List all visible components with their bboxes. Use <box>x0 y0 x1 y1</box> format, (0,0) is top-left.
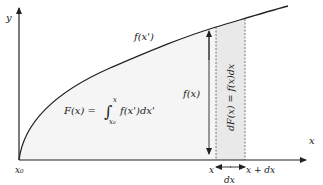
dx-label: dx <box>224 175 235 185</box>
height-label: f(x) <box>182 88 200 99</box>
y-axis-label: y <box>5 12 12 23</box>
formula-lhs: F(x) = <box>63 105 96 116</box>
tick-x: x <box>209 165 214 175</box>
curve-label: f(x') <box>133 31 154 42</box>
strip-label: dF(x) = f(x)dx <box>225 63 236 131</box>
formula-integrand: f(x')dx' <box>119 105 155 116</box>
integral-upper-limit: x <box>113 96 117 104</box>
integral-lower-limit: x₀ <box>109 118 116 126</box>
x-axis-label: x <box>309 135 315 146</box>
tick-x-plus-dx: x + dx <box>246 165 275 175</box>
integral-diagram: y x f(x') f(x) F(x) = ∫ x x₀ f(x')dx' dF… <box>0 0 323 185</box>
tick-x0: x₀ <box>15 165 24 175</box>
